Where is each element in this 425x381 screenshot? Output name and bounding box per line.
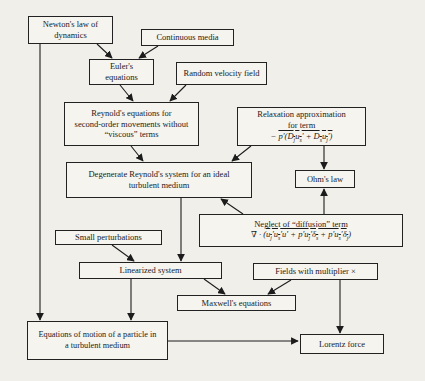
node-relaxation-approximation: Relaxation approximation for term − p′(D… (237, 107, 366, 146)
node-label: Maxwell's equations (202, 298, 272, 309)
fseg: p′(D (278, 131, 293, 141)
node-eulers-equations: Euler's equations (89, 59, 154, 85)
flowchart-figure: Newton's law of dynamics Continuous medi… (0, 0, 425, 381)
node-newtons-law: Newton's law of dynamics (28, 16, 113, 44)
node-label: dynamics (54, 30, 87, 41)
arrow-small-to-linearized (112, 245, 134, 261)
arrow-fields-to-maxwell (268, 280, 291, 294)
node-label: Equations of motion of a particle in (39, 330, 157, 341)
node-label: Ohm's law (307, 174, 343, 185)
node-label: turbulent medium (129, 180, 190, 191)
node-reynolds-equations: Reynold's equations for second-order mov… (64, 102, 199, 146)
arrow-newton-to-euler (97, 44, 112, 58)
node-label: “viscous” terms (104, 129, 158, 140)
node-label: Reynold's equations for (91, 108, 171, 119)
node-label: Continuous media (156, 32, 218, 43)
fseg: ) (348, 229, 351, 239)
fseg: ′) (328, 131, 333, 141)
node-lorentz-force: Lorentz force (300, 334, 384, 354)
node-label: Degenerate Reynold's system for an ideal (88, 169, 229, 180)
diffusion-term-formula: ∇ · (uj′us′u′ + p′uj′δs + p′us′δj) (251, 229, 351, 242)
node-label: Fields with multiplier × (275, 266, 356, 277)
node-label: for term (288, 120, 316, 131)
node-label: Neglect of “diffusion” term (254, 219, 348, 230)
node-label: Linearized system (119, 265, 181, 276)
node-degenerate-reynolds-system: Degenerate Reynold's system for an ideal… (66, 162, 252, 198)
fseg: ′u′ + p′u (280, 229, 308, 239)
node-label: Euler's (110, 61, 133, 72)
node-small-perturbations: Small perturbations (55, 230, 162, 245)
fseg: + p′u (318, 229, 338, 239)
overlined-expression: uj′us′u′ + p′uj′δs + p′us′δj (266, 229, 348, 239)
node-label: Relaxation approximation (257, 109, 346, 120)
arrow-relaxation-to-degenerate (232, 146, 251, 161)
node-equations-of-motion: Equations of motion of a particle in a t… (27, 321, 168, 360)
arrow-neglect-to-degenerate (221, 199, 243, 214)
arrow-reynolds-to-degenerate (131, 146, 143, 161)
node-random-velocity-field: Random velocity field (176, 62, 267, 85)
fseg: ∇ · ( (251, 229, 266, 239)
node-label: a turbulent medium (65, 341, 130, 352)
node-continuous-media: Continuous media (141, 29, 234, 46)
node-label: Newton's law of (43, 19, 98, 30)
relaxation-term-formula: − p′(Djus′ + Dsuj′) (271, 131, 333, 144)
node-label: Lorentz force (319, 339, 365, 350)
node-label: Random velocity field (183, 68, 259, 79)
arrow-random-to-reynolds (170, 85, 186, 101)
fseg: ′ + D (302, 131, 320, 141)
arrow-linearized-to-maxwell (204, 279, 225, 294)
node-ohms-law: Ohm's law (295, 170, 355, 188)
arrow-continuous-to-euler (139, 46, 158, 58)
node-label: second-order movements without (75, 119, 189, 130)
node-label: equations (105, 72, 138, 83)
node-label: Small perturbations (75, 232, 142, 243)
node-linearized-system: Linearized system (79, 262, 222, 279)
node-fields-with-multiplier: Fields with multiplier × (253, 263, 378, 280)
node-neglect-diffusion-term: Neglect of “diffusion” term ∇ · (uj′us′u… (199, 214, 403, 247)
overlined-expression: p′(Djus′ + Dsuj′) (278, 131, 332, 141)
arrow-euler-to-reynolds (120, 85, 133, 101)
node-maxwells-equations: Maxwell's equations (177, 295, 296, 311)
